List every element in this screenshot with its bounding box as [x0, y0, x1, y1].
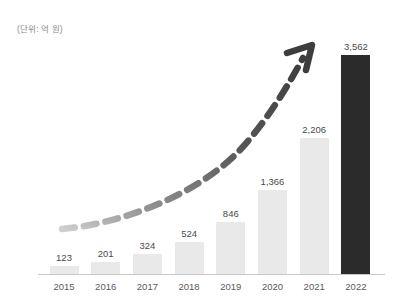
bar-value-label: 846 [204, 208, 258, 219]
bar-2021[interactable] [300, 138, 329, 274]
bar-2022[interactable] [341, 55, 370, 274]
bar-2018[interactable] [175, 242, 204, 274]
plot-area: 123 201 324 524 846 1,366 2,206 3,562 20… [0, 0, 397, 307]
bar-2017[interactable] [133, 254, 162, 274]
bar-value-label: 2,206 [287, 124, 341, 135]
bar-2020[interactable] [258, 190, 287, 274]
bar-value-label: 3,562 [329, 41, 383, 52]
bar-value-label: 524 [162, 228, 216, 239]
bar-2019[interactable] [216, 222, 245, 274]
bar-2016[interactable] [91, 262, 120, 274]
bar-2015[interactable] [50, 266, 79, 274]
bar-chart: (단위: 억 원) 123 201 324 524 846 1,366 2,20… [0, 0, 397, 307]
trend-arrowhead-icon [287, 45, 312, 70]
bar-value-label: 1,366 [246, 176, 300, 187]
x-axis-baseline [38, 274, 385, 275]
x-tick-label-2022: 2022 [329, 281, 383, 292]
bar-value-label: 324 [120, 240, 174, 251]
